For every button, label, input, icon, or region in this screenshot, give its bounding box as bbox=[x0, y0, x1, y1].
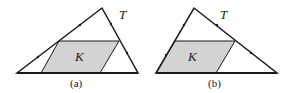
tick-mark bbox=[79, 24, 81, 26]
triangle-label: T bbox=[119, 7, 127, 22]
caption: (b) bbox=[208, 77, 221, 90]
region-label: K bbox=[74, 49, 85, 64]
tick-mark bbox=[126, 52, 128, 54]
tick-mark bbox=[216, 24, 218, 26]
tick-mark bbox=[165, 54, 167, 56]
tick-mark bbox=[250, 52, 252, 54]
panel-b: T K (b) bbox=[156, 7, 277, 90]
region-label: K bbox=[187, 49, 198, 64]
panel-a: T K (a) bbox=[17, 7, 138, 90]
caption: (a) bbox=[70, 77, 83, 90]
triangle-label: T bbox=[220, 7, 228, 22]
tick-mark bbox=[183, 24, 185, 26]
tick-mark bbox=[37, 56, 39, 58]
tick-mark bbox=[110, 23, 112, 25]
figure: T K (a) T K (b) bbox=[0, 0, 289, 93]
